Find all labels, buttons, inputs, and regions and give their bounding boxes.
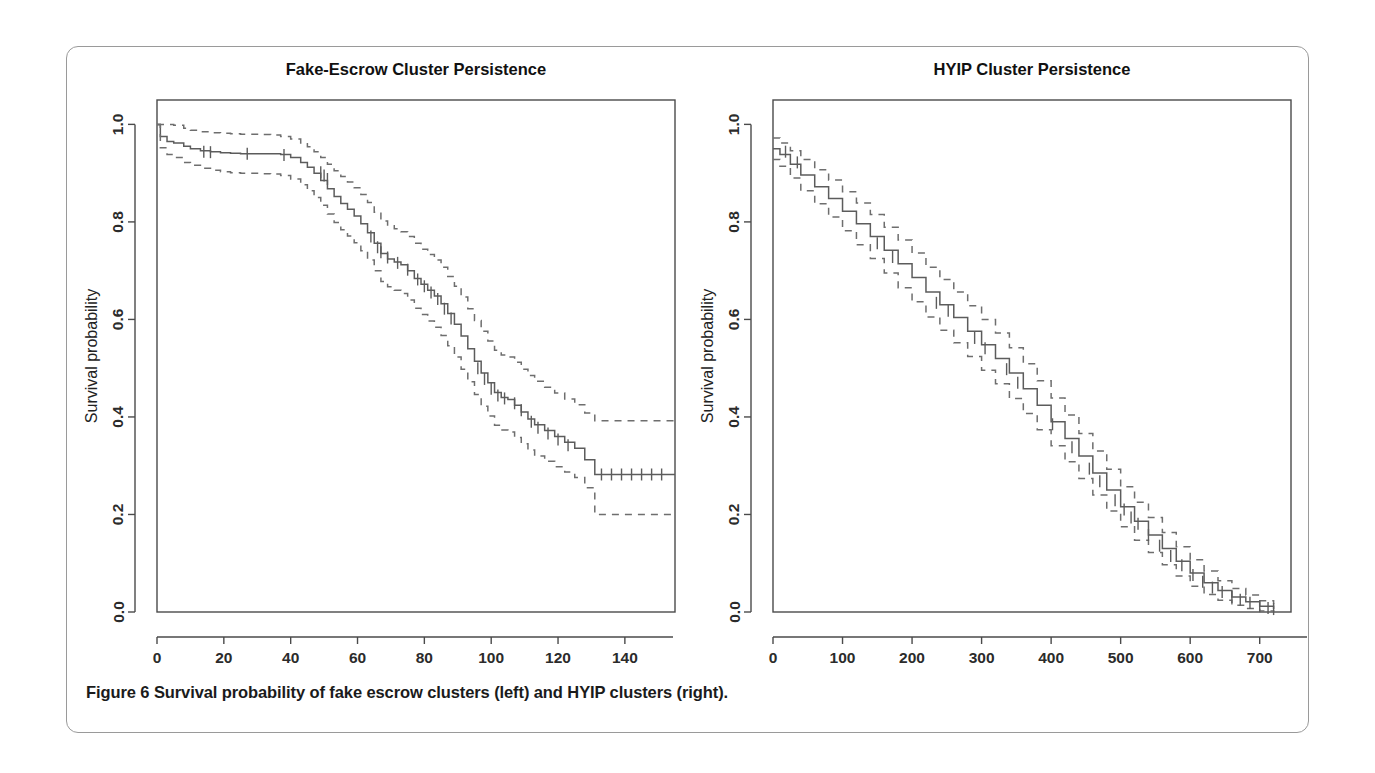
x-tick-label: 600 bbox=[1177, 649, 1203, 666]
x-tick-label: 0 bbox=[769, 649, 778, 666]
y-tick-label: 0.0 bbox=[726, 601, 743, 623]
survival-curve bbox=[157, 124, 675, 474]
figure-caption: Figure 6 Survival probability of fake es… bbox=[86, 681, 1286, 703]
x-tick-label: 100 bbox=[478, 649, 504, 666]
figure-caption-label: Figure 6 bbox=[86, 683, 149, 701]
x-tick-label: 400 bbox=[1038, 649, 1064, 666]
x-tick-label: 120 bbox=[545, 649, 571, 666]
plot-frame bbox=[157, 100, 675, 612]
figure-page: Fake-Escrow Cluster Persistence020406080… bbox=[0, 0, 1375, 773]
plot-frame bbox=[773, 100, 1291, 612]
x-tick-label: 300 bbox=[969, 649, 995, 666]
survival-curve bbox=[773, 149, 1274, 609]
chart-panel-fake-escrow: Fake-Escrow Cluster Persistence020406080… bbox=[71, 47, 691, 667]
x-tick-label: 100 bbox=[830, 649, 856, 666]
y-tick-label: 0.4 bbox=[726, 406, 743, 428]
figure-panels: Fake-Escrow Cluster Persistence020406080… bbox=[67, 47, 1310, 667]
x-tick-label: 20 bbox=[215, 649, 232, 666]
figure-caption-text: Survival probability of fake escrow clus… bbox=[154, 683, 728, 701]
confidence-band-line bbox=[157, 124, 675, 514]
figure-card: Fake-Escrow Cluster Persistence020406080… bbox=[66, 46, 1309, 733]
y-tick-label: 1.0 bbox=[110, 114, 127, 136]
chart-panel-hyip: HYIP Cluster Persistence0100200300400500… bbox=[687, 47, 1307, 667]
y-tick-label: 0.2 bbox=[726, 504, 743, 526]
x-tick-label: 200 bbox=[899, 649, 925, 666]
y-tick-label: 0.2 bbox=[110, 504, 127, 526]
x-tick-label: 500 bbox=[1108, 649, 1134, 666]
chart-title: Fake-Escrow Cluster Persistence bbox=[286, 60, 546, 78]
x-tick-label: 40 bbox=[282, 649, 299, 666]
confidence-band-line bbox=[157, 124, 675, 420]
y-tick-label: 0.8 bbox=[726, 211, 743, 233]
y-tick-label: 0.0 bbox=[110, 601, 127, 623]
confidence-band-line bbox=[773, 138, 1274, 604]
chart-svg-fake-escrow: Fake-Escrow Cluster Persistence020406080… bbox=[71, 47, 691, 667]
x-tick-label: 80 bbox=[416, 649, 433, 666]
x-tick-label: 60 bbox=[349, 649, 366, 666]
y-axis-title: Survival probability bbox=[83, 289, 100, 423]
y-tick-label: 0.8 bbox=[110, 211, 127, 233]
y-tick-label: 0.4 bbox=[110, 406, 127, 428]
x-tick-label: 0 bbox=[153, 649, 162, 666]
x-tick-label: 700 bbox=[1247, 649, 1273, 666]
y-axis-title: Survival probability bbox=[699, 289, 716, 423]
y-tick-label: 1.0 bbox=[726, 114, 743, 136]
x-tick-label: 140 bbox=[612, 649, 638, 666]
chart-svg-hyip: HYIP Cluster Persistence0100200300400500… bbox=[687, 47, 1307, 667]
chart-title: HYIP Cluster Persistence bbox=[934, 60, 1131, 78]
y-tick-label: 0.6 bbox=[110, 308, 127, 330]
y-tick-label: 0.6 bbox=[726, 308, 743, 330]
